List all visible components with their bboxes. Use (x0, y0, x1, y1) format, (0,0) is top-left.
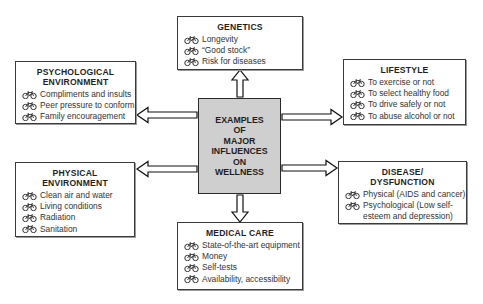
bicycle-icon (22, 192, 37, 200)
lifestyle-title: LIFESTYLE (344, 65, 465, 75)
bicycle-icon (184, 253, 199, 261)
bicycle-icon (22, 214, 37, 222)
disease-title: DISEASE/ DYSFUNCTION (339, 167, 466, 187)
list-item: To select healthy food (350, 88, 465, 99)
list-item: To abuse alcohol or not (350, 111, 465, 122)
bicycle-icon (22, 91, 37, 99)
genetics-box: GENETICS Longevity “Good stock” Risk for… (177, 16, 303, 70)
physical-environment-box: PHYSICAL ENVIRONMENT Clean air and water… (15, 162, 135, 237)
center-label: EXAMPLES OF MAJOR INFLUENCES ON WELLNESS (211, 115, 267, 178)
list-item: Physical (AIDS and cancer) (345, 189, 466, 200)
bicycle-icon (350, 90, 365, 98)
arrow-left-psychological (137, 108, 197, 123)
list-item: Risk for diseases (184, 56, 302, 67)
bicycle-icon (350, 101, 365, 109)
list-item: State-of-the-art equipment (184, 240, 302, 251)
bicycle-icon (184, 275, 199, 283)
list-item: Clean air and water (22, 190, 134, 201)
bicycle-icon (184, 36, 199, 44)
list-item: Money (184, 251, 302, 262)
list-item: Longevity (184, 34, 302, 45)
list-item: Sanitation (22, 224, 134, 235)
bicycle-icon (22, 225, 37, 233)
bicycle-icon (22, 113, 37, 121)
list-item: “Good stock” (184, 45, 302, 56)
list-item: To exercise or not (350, 77, 465, 88)
center-box: EXAMPLES OF MAJOR INFLUENCES ON WELLNESS (198, 98, 281, 194)
list-item: Peer pressure to conform (22, 100, 135, 111)
list-item: Family encouragement (22, 111, 135, 122)
bicycle-icon (345, 202, 360, 210)
arrow-up-genetics (232, 70, 248, 97)
lifestyle-box: LIFESTYLE To exercise or not To select h… (343, 59, 466, 125)
psychological-title: PSYCHOLOGICAL ENVIRONMENT (16, 67, 135, 87)
disease-dysfunction-box: DISEASE/ DYSFUNCTION Physical (AIDS and … (338, 161, 467, 224)
bicycle-icon (350, 112, 365, 120)
list-item: Compliments and insults (22, 89, 135, 100)
bicycle-icon (350, 79, 365, 87)
list-item: Radiation (22, 212, 134, 223)
bicycle-icon (184, 264, 199, 272)
list-item: Living conditions (22, 201, 134, 212)
list-item: Availability, accessibility (184, 274, 302, 285)
bicycle-icon (345, 191, 360, 199)
bicycle-icon (22, 203, 37, 211)
arrow-down-medical (232, 195, 248, 222)
psychological-environment-box: PSYCHOLOGICAL ENVIRONMENT Compliments an… (15, 61, 136, 124)
arrow-left-physical (137, 162, 197, 177)
arrow-right-lifestyle (282, 110, 342, 125)
physical-title: PHYSICAL ENVIRONMENT (16, 168, 134, 188)
medical-title: MEDICAL CARE (178, 228, 302, 238)
bicycle-icon (184, 242, 199, 250)
list-item: Psychological (Low self-esteem and depre… (345, 200, 457, 222)
bicycle-icon (22, 102, 37, 110)
medical-care-box: MEDICAL CARE State-of-the-art equipment … (177, 222, 303, 290)
bicycle-icon (184, 58, 199, 66)
list-item: To drive safely or not (350, 99, 465, 110)
list-item: Self-tests (184, 262, 302, 273)
bicycle-icon (184, 47, 199, 55)
genetics-title: GENETICS (178, 22, 302, 32)
arrow-right-disease (282, 161, 337, 176)
